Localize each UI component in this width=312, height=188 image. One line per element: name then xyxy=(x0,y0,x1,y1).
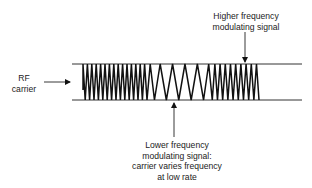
fm-waveform xyxy=(83,64,259,100)
rf-carrier-label: RF carrier xyxy=(4,73,44,94)
lower-frequency-label-line-2: modulating signal: xyxy=(126,151,228,162)
higher-frequency-label-line-2: modulating signal xyxy=(205,22,287,33)
lower-frequency-label-line-1: Lower frequency xyxy=(126,140,228,151)
rf-carrier-label-line-1: RF xyxy=(4,73,44,84)
higher-frequency-label-line-1: Higher frequency xyxy=(205,11,287,22)
lower-frequency-label: Lower frequency modulating signal: carri… xyxy=(126,140,228,182)
higher-frequency-label: Higher frequency modulating signal xyxy=(205,11,287,32)
lower-frequency-label-line-4: at low rate xyxy=(126,172,228,183)
rf-carrier-label-line-2: carrier xyxy=(4,84,44,95)
lower-frequency-label-line-3: carrier varies frequency xyxy=(126,161,228,172)
